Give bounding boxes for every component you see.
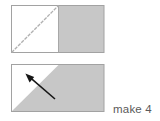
diagram-stage: make 4: [0, 0, 160, 121]
step-1-gray-square: [59, 6, 105, 53]
step-2-group: [12, 65, 105, 112]
step-1-group: [12, 6, 105, 53]
make-count-caption: make 4: [113, 101, 159, 117]
